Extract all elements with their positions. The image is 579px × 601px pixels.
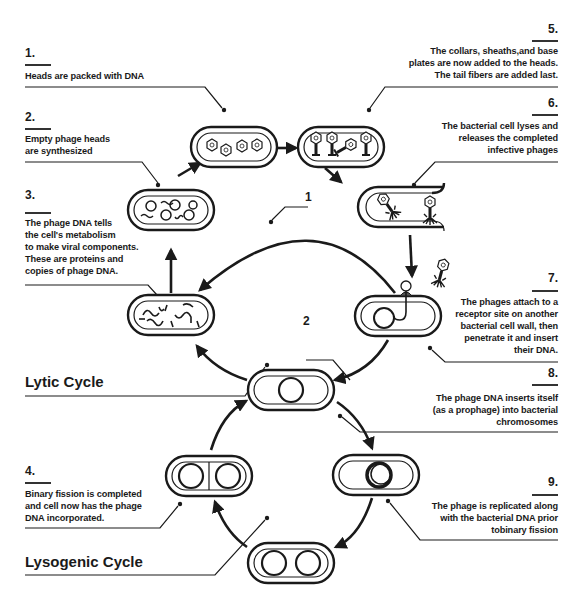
cell-empty-heads (128, 190, 214, 230)
step-4-line: Binary fission is completed (25, 488, 142, 500)
step-7-line: their DNA. (358, 344, 558, 356)
step-1-text: Heads are packed with DNA (25, 70, 144, 82)
step-3-line: The phage DNA tells (25, 217, 138, 229)
step-4-number: 4. (25, 464, 35, 478)
step-5-rule (532, 40, 558, 42)
step-5-number: 5. (548, 22, 558, 36)
step-4-line: and cell now has the phage (25, 500, 142, 512)
step-2-line: Empty phage heads (25, 133, 110, 145)
cell-two-chromosomes (248, 543, 334, 583)
step-6-text: The bacterial cell lyses and releases th… (298, 120, 558, 156)
step-6-rule (532, 114, 558, 116)
step-4-line: DNA incorporated. (25, 512, 142, 524)
cell-lysing (358, 183, 444, 231)
step-3-rule (25, 212, 51, 214)
lytic-path-marker-1: 1 (305, 190, 312, 204)
step-2-rule (25, 128, 51, 130)
step-3-text: The phage DNA tells the cell's metabolis… (25, 217, 138, 277)
step-7-line: The phages attach to a (358, 296, 558, 308)
step-3-line: the cell's metabolism (25, 229, 138, 241)
lysogenic-path-marker-2: 2 (303, 314, 310, 328)
step-9-line: tobinary fission (338, 524, 558, 536)
step-1-number: 1. (25, 46, 35, 60)
step-3-number: 3. (25, 188, 35, 202)
lysogenic-cycle-title: Lysogenic Cycle (25, 553, 143, 570)
step-6-number: 6. (548, 96, 558, 110)
step-8-rule (532, 384, 558, 386)
step-4-rule (25, 482, 51, 484)
step-6-line: releases the completed (298, 132, 558, 144)
lytic-cycle-title: Lytic Cycle (25, 373, 104, 390)
step-5-line: The tail fibers are added last. (298, 69, 558, 81)
step-8-line: (as a prophage) into bacterial (338, 404, 558, 416)
free-phage (431, 257, 452, 289)
step-7-text: The phages attach to a receptor site on … (358, 296, 558, 356)
step-8-text: The phage DNA inserts itself (as a proph… (338, 392, 558, 428)
step-7-rule (532, 290, 558, 292)
step-6-line: The bacterial cell lyses and (298, 120, 558, 132)
step-8-number: 8. (548, 366, 558, 380)
cell-binary-fission (166, 456, 252, 496)
step-8-line: chromosomes (338, 416, 558, 428)
step-3-line: These are proteins and (25, 253, 138, 265)
step-1-line: Heads are packed with DNA (25, 70, 144, 82)
step-6-line: infective phages (298, 144, 558, 156)
step-3-line: copies of phage DNA. (25, 265, 138, 277)
step-7-line: penetrate it and insert (358, 332, 558, 344)
step-1-rule (25, 64, 51, 66)
cell-heads-packed (191, 127, 277, 167)
step-5-text: The collars, sheaths,and base plates are… (298, 45, 558, 81)
step-9-text: The phage is replicated along with the b… (338, 500, 558, 536)
step-9-line: with the bacterial DNA prior (338, 512, 558, 524)
step-2-text: Empty phage heads are synthesized (25, 133, 110, 157)
step-3-line: to make viral components. (25, 241, 138, 253)
step-7-line: bacterial cell wall, then (358, 320, 558, 332)
step-7-line: receptor site on another (358, 308, 558, 320)
step-5-line: plates are now added to the heads. (298, 57, 558, 69)
step-9-rule (532, 494, 558, 496)
step-7-number: 7. (548, 271, 558, 285)
step-2-number: 2. (25, 110, 35, 124)
cell-entry (248, 370, 334, 410)
step-9-number: 9. (548, 475, 558, 489)
cell-prophage (333, 455, 419, 495)
step-8-line: The phage DNA inserts itself (338, 392, 558, 404)
step-2-line: are synthesized (25, 145, 110, 157)
step-9-line: The phage is replicated along (338, 500, 558, 512)
cell-dna-replication (128, 295, 214, 335)
step-4-text: Binary fission is completed and cell now… (25, 488, 142, 524)
step-5-line: The collars, sheaths,and base (298, 45, 558, 57)
